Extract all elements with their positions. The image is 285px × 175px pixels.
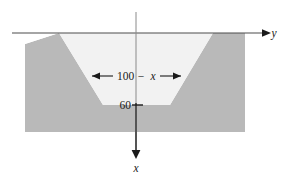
cross-section-diagram: y x 100 − x 60 xyxy=(0,0,285,175)
width-dim-number: 100 xyxy=(117,70,135,82)
x-axis-arrowhead xyxy=(132,150,141,159)
x-axis-label: x xyxy=(132,162,139,174)
width-dim-variable: x xyxy=(149,70,156,82)
depth-label-value: 60 xyxy=(120,99,132,111)
y-axis-label: y xyxy=(270,27,277,40)
figure-container: y x 100 − x 60 xyxy=(0,0,285,175)
y-axis-arrowhead xyxy=(262,29,271,37)
width-dim-operator: − xyxy=(138,70,145,82)
